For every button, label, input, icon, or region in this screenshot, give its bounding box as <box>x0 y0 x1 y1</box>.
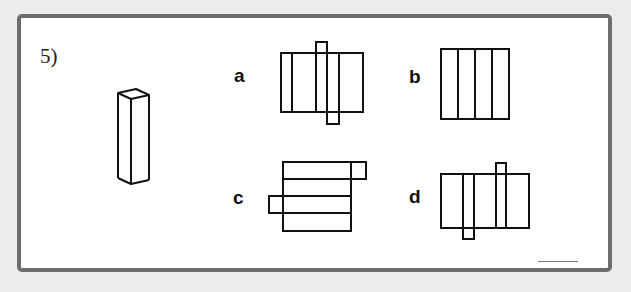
option-d-label[interactable]: d <box>409 186 421 208</box>
option-c-label[interactable]: c <box>233 187 244 209</box>
figures <box>0 0 631 292</box>
net-a[interactable] <box>281 42 363 124</box>
option-a-label[interactable]: a <box>234 65 245 87</box>
answer-blank-line[interactable] <box>538 261 578 262</box>
option-b-label[interactable]: b <box>409 66 421 88</box>
net-b[interactable] <box>441 49 509 119</box>
prism-figure <box>118 89 149 184</box>
net-c[interactable] <box>269 162 366 231</box>
net-d[interactable] <box>441 163 529 239</box>
